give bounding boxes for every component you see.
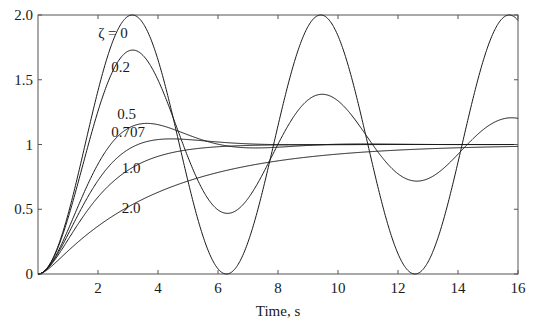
x-tick-label: 10	[331, 280, 346, 296]
y-tick-label: 0	[26, 266, 34, 282]
y-tick-label: 0.5	[14, 201, 33, 217]
curve-label: 0.707	[111, 124, 145, 140]
curve-label: 0.5	[117, 106, 136, 122]
y-tick-label: 1	[26, 137, 34, 153]
x-axis-title: Time, s	[256, 303, 301, 319]
plot-area: 246810121416 00.511.52.0 ζ = 00.20.50.70…	[14, 7, 526, 296]
x-tick-label: 8	[274, 280, 282, 296]
y-tick-label: 2.0	[14, 7, 33, 23]
x-tick-label: 14	[451, 280, 467, 296]
curve-series-3	[38, 139, 518, 274]
curve-series-2	[38, 123, 518, 274]
x-axis-ticks: 246810121416	[94, 15, 526, 296]
x-tick-label: 2	[94, 280, 102, 296]
x-tick-label: 4	[154, 280, 162, 296]
curve-label: 2.0	[122, 200, 141, 216]
curve-labels: ζ = 00.20.50.7071.02.0	[98, 25, 145, 216]
y-tick-label: 1.5	[14, 72, 33, 88]
curve-label: 1.0	[122, 160, 141, 176]
curve-label: 0.2	[111, 59, 130, 75]
x-tick-label: 12	[391, 280, 406, 296]
step-response-chart: 246810121416 00.511.52.0 ζ = 00.20.50.70…	[0, 0, 533, 329]
x-tick-label: 16	[511, 280, 527, 296]
curve-series-1	[38, 50, 518, 274]
response-curves	[38, 15, 518, 274]
curve-label: ζ = 0	[98, 25, 128, 41]
x-tick-label: 6	[214, 280, 222, 296]
